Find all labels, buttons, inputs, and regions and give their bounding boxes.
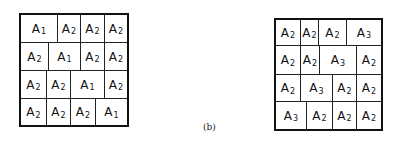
- cell-subscript: 2: [312, 31, 317, 40]
- cell-letter: A: [284, 109, 292, 123]
- grid-cell: A2: [357, 102, 381, 129]
- grid-cell: A2: [105, 43, 127, 71]
- cell-letter: A: [32, 22, 40, 36]
- cell-letter: A: [337, 109, 345, 123]
- grid-cell: A2: [81, 15, 105, 43]
- grid-cell: A3: [320, 46, 357, 75]
- cell-subscript: 2: [347, 87, 352, 96]
- cell-subscript: 2: [95, 55, 100, 64]
- grid-cell: A2: [105, 15, 127, 43]
- grid-cell: A2: [21, 99, 47, 125]
- cell-letter: A: [109, 22, 117, 36]
- cell-letter: A: [362, 109, 370, 123]
- cell-subscript: 1: [41, 27, 46, 36]
- cell-subscript: 2: [347, 114, 352, 123]
- cell-letter: A: [80, 78, 88, 92]
- grid-cell: A2: [21, 43, 49, 71]
- grid-cell: A2: [333, 102, 357, 129]
- cell-letter: A: [281, 53, 289, 67]
- grid-cell: A2: [357, 46, 381, 75]
- grid-cell: A2: [333, 75, 357, 102]
- cell-letter: A: [303, 53, 311, 67]
- grid-cell: A2: [58, 15, 81, 43]
- cell-letter: A: [85, 50, 93, 64]
- cell-subscript: 2: [37, 55, 42, 64]
- cell-subscript: 2: [95, 27, 100, 36]
- cell-letter: A: [26, 105, 34, 119]
- cell-letter: A: [325, 26, 333, 40]
- cell-subscript: 2: [118, 27, 123, 36]
- grid-cell: A3: [301, 75, 333, 102]
- cell-letter: A: [337, 81, 345, 95]
- cell-subscript: 1: [114, 111, 119, 120]
- grid-cell: A2: [319, 20, 347, 46]
- grid-cell: A2: [21, 71, 47, 99]
- cell-letter: A: [57, 50, 65, 64]
- cell-letter: A: [362, 81, 370, 95]
- cell-letter: A: [312, 109, 320, 123]
- cell-subscript: 2: [36, 111, 41, 120]
- cell-letter: A: [109, 78, 117, 92]
- grid-cell: A2: [105, 71, 127, 99]
- cell-subscript: 2: [335, 31, 340, 40]
- cell-subscript: 1: [90, 83, 95, 92]
- cell-letter: A: [281, 26, 289, 40]
- cell-letter: A: [27, 50, 35, 64]
- grid-cell: A3: [347, 20, 381, 46]
- cell-letter: A: [51, 78, 59, 92]
- cell-letter: A: [85, 22, 93, 36]
- cell-subscript: 2: [61, 111, 66, 120]
- cell-subscript: 2: [118, 55, 123, 64]
- grid-cell: A2: [276, 46, 301, 75]
- cell-letter: A: [302, 26, 310, 40]
- cell-subscript: 2: [118, 83, 123, 92]
- cell-letter: A: [104, 105, 112, 119]
- cell-letter: A: [281, 81, 289, 95]
- cell-letter: A: [62, 22, 70, 36]
- cell-letter: A: [362, 53, 370, 67]
- cell-subscript: 2: [36, 83, 41, 92]
- cell-subscript: 3: [340, 59, 345, 68]
- grid-cell: A2: [276, 75, 301, 102]
- grid-cell: A2: [276, 20, 301, 46]
- cell-subscript: 2: [290, 31, 295, 40]
- cell-subscript: 2: [61, 83, 66, 92]
- cell-subscript: 2: [371, 59, 376, 68]
- cell-subscript: 3: [293, 114, 298, 123]
- cell-subscript: 2: [85, 111, 90, 120]
- cell-letter: A: [26, 78, 34, 92]
- grid-cell: A2: [71, 99, 96, 125]
- grid-cell: A1: [49, 43, 81, 71]
- cell-subscript: 2: [371, 87, 376, 96]
- grid-cell: A2: [47, 99, 71, 125]
- grid-cell: A2: [307, 102, 333, 129]
- cell-subscript: 2: [290, 87, 295, 96]
- figure-caption: (b): [203, 122, 216, 132]
- grid-cell: A2: [357, 75, 381, 102]
- cell-subscript: 2: [371, 114, 376, 123]
- grid-cell: A1: [21, 15, 58, 43]
- cell-subscript: 2: [290, 59, 295, 68]
- tiling-grid-b: A2A2A2A3A2A2A3A2A2A3A2A2A3A2A2A2: [274, 18, 383, 131]
- cell-subscript: 2: [71, 27, 76, 36]
- cell-subscript: 2: [312, 59, 317, 68]
- grid-cell: A1: [71, 71, 105, 99]
- cell-subscript: 2: [322, 114, 327, 123]
- cell-letter: A: [309, 81, 317, 95]
- grid-cell: A2: [301, 46, 320, 75]
- cell-letter: A: [109, 50, 117, 64]
- cell-subscript: 3: [319, 87, 324, 96]
- cell-letter: A: [357, 26, 365, 40]
- cell-subscript: 3: [366, 31, 371, 40]
- cell-subscript: 1: [67, 55, 72, 64]
- grid-cell: A3: [276, 102, 307, 129]
- grid-cell: A2: [47, 71, 71, 99]
- cell-letter: A: [76, 105, 84, 119]
- tiling-grid-a: A1A2A2A2A2A1A2A2A2A2A1A2A2A2A2A1: [19, 13, 129, 127]
- grid-cell: A1: [96, 99, 127, 125]
- grid-cell: A2: [81, 43, 105, 71]
- cell-letter: A: [331, 53, 339, 67]
- grid-cell: A2: [301, 20, 319, 46]
- cell-letter: A: [51, 105, 59, 119]
